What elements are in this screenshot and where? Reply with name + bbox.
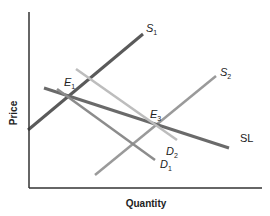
supply-demand-diagram: S1S2SLD1D2E1E3 Price Quantity xyxy=(0,0,270,216)
curve-d1 xyxy=(57,89,155,160)
label-d2: D2 xyxy=(166,145,178,159)
label-s1: S1 xyxy=(146,22,157,36)
equilibrium-label-e3: E3 xyxy=(150,108,161,122)
label-sl: SL xyxy=(240,132,253,144)
label-d1: D1 xyxy=(160,158,172,172)
x-axis-title: Quantity xyxy=(126,198,167,209)
equilibrium-label-e1: E1 xyxy=(64,76,75,90)
y-axis-title: Price xyxy=(8,100,19,125)
label-s2: S2 xyxy=(220,66,231,80)
curve-sl xyxy=(44,88,229,148)
